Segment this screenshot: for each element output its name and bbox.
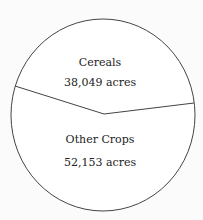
slice-label-cereals: Cereals 38,049 acres	[50, 56, 150, 89]
cereals-value: 38,049 acres	[50, 76, 150, 89]
pie-outline	[11, 19, 195, 211]
other-crops-value: 52,153 acres	[50, 156, 150, 169]
pie-chart	[0, 0, 203, 220]
slice-label-other-crops: Other Crops 52,153 acres	[50, 133, 150, 169]
cereals-name: Cereals	[50, 56, 150, 69]
other-crops-name: Other Crops	[50, 133, 150, 146]
